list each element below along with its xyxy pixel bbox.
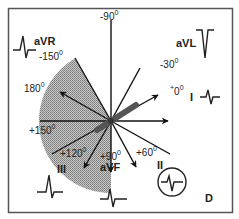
lead-label-avl: aVL (176, 38, 196, 49)
lead-label-ii: II (157, 160, 163, 171)
label-plus60: +600 (136, 146, 157, 158)
label-minus90: -900 (100, 10, 118, 22)
axis-hub (108, 118, 114, 124)
lead-label-avr: aVR (34, 36, 55, 47)
label-plus120: +1200 (60, 147, 86, 159)
label-minus150: -1500 (39, 50, 63, 62)
hexaxial-diagram: -900 -1500 -300 1800 +00 +1500 +1200 +90… (0, 0, 239, 219)
label-minus30: -300 (160, 58, 178, 70)
hexaxial-svg (0, 0, 239, 219)
label-0: +00 (170, 85, 184, 97)
label-180: 1800 (24, 82, 45, 94)
lead-label-avf: aVF (100, 162, 120, 173)
label-plus150: +1500 (29, 124, 55, 136)
lead-label-iii: III (57, 164, 66, 175)
panel-label: D (205, 193, 213, 204)
lead-label-i: I (190, 92, 193, 103)
